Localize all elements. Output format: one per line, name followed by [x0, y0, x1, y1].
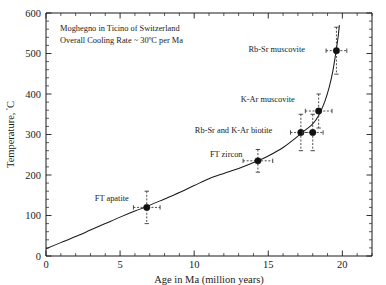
data-label-rb-sr-muscovite: Rb-Sr muscovite [248, 45, 305, 54]
x-tick-label-10: 10 [189, 259, 200, 270]
data-label-k-ar-muscovite: K-Ar muscovite [241, 95, 295, 104]
y-tick-label-0: 0 [36, 251, 41, 262]
x-tick-label-0: 0 [43, 259, 48, 270]
data-point-k-ar-muscovite[interactable] [315, 108, 321, 114]
chart-svg: 010020030040050060005101520Age in Ma (mi… [0, 0, 386, 285]
x-axis-title: Age in Ma (million years) [154, 274, 264, 285]
data-point-ft-zircon[interactable] [255, 158, 261, 164]
y-tick-label-400: 400 [25, 89, 41, 100]
x-tick-label-15: 15 [263, 259, 274, 270]
cooling-curve [46, 25, 339, 249]
x-tick-label-5: 5 [117, 259, 122, 270]
data-point-ft-apatite[interactable] [144, 204, 150, 210]
cooling-history-chart: 010020030040050060005101520Age in Ma (mi… [0, 0, 386, 285]
data-label-rb-sr-and-k-ar-biotite: Rb-Sr and K-Ar biotite [195, 126, 273, 135]
data-label-ft-apatite: FT apatite [95, 194, 129, 203]
y-tick-label-100: 100 [25, 210, 41, 221]
data-point-point-3[interactable] [310, 129, 316, 135]
y-tick-label-200: 200 [25, 170, 41, 181]
data-label-ft-zircon: FT zircon [210, 150, 243, 159]
y-tick-label-300: 300 [25, 129, 41, 140]
y-tick-label-500: 500 [25, 48, 41, 59]
y-axis-title: Temperature, ºC [5, 101, 17, 168]
annotation-line-1: Moghegno in Ticino of Switzerland [60, 24, 180, 33]
y-tick-label-600: 600 [25, 8, 41, 19]
x-tick-label-20: 20 [337, 259, 348, 270]
annotation-line-2: Overall Cooling Rate ~ 30ºC per Ma [60, 36, 183, 45]
data-point-rb-sr-muscovite[interactable] [333, 47, 339, 53]
